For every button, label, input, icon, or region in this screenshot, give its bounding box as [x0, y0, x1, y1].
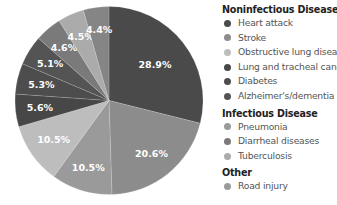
slice-label: 28.9% [138, 59, 171, 70]
slice-label: 5.1% [37, 58, 64, 69]
legend-group-title: Noninfectious Disease [222, 3, 337, 16]
legend-item-pneumonia: Pneumonia [222, 120, 337, 135]
legend-group-noninfectious: Noninfectious Disease Heart attack Strok… [222, 3, 337, 104]
legend-item-diabetes: Diabetes [222, 74, 337, 89]
legend-dot-icon [224, 64, 231, 71]
slice-label: 10.5% [37, 134, 70, 145]
pie-chart: 28.9%20.6%10.5%10.5%5.6%5.3%5.1%4.6%4.5%… [0, 0, 220, 205]
legend-group-infectious: Infectious Disease Pneumonia Diarrheal d… [222, 107, 337, 164]
legend-dot-icon [224, 183, 231, 190]
legend-item-alzheimers: Alzheimer's/dementia [222, 89, 337, 104]
legend-dot-icon [224, 93, 231, 100]
slice-label: 5.6% [27, 102, 54, 113]
legend-group-other: Other Road injury [222, 166, 337, 194]
legend-dot-icon [224, 34, 231, 41]
legend-dot-icon [224, 20, 231, 27]
legend-dot-icon [224, 78, 231, 85]
legend-dot-icon [224, 123, 231, 130]
legend-item-heart-attack: Heart attack [222, 16, 337, 31]
legend-group-title: Other [222, 166, 337, 179]
slice-label: 4.4% [86, 24, 113, 35]
legend-item-road-injury: Road injury [222, 179, 337, 194]
legend-item-tuberculosis: Tuberculosis [222, 149, 337, 164]
legend-dot-icon [224, 49, 231, 56]
legend-dot-icon [224, 138, 231, 145]
legend-group-title: Infectious Disease [222, 107, 337, 120]
legend-item-stroke: Stroke [222, 31, 337, 46]
legend-dot-icon [224, 153, 231, 160]
legend-item-lung-tracheal-cancers: Lung and tracheal cancers [222, 60, 337, 75]
legend-item-obstructive-lung-disease: Obstructive lung disease [222, 45, 337, 60]
slice-label: 20.6% [135, 148, 168, 159]
slice-label: 10.5% [72, 162, 105, 173]
legend: Noninfectious Disease Heart attack Strok… [222, 3, 337, 197]
legend-item-diarrheal-diseases: Diarrheal diseases [222, 134, 337, 149]
slice-label: 5.3% [28, 79, 55, 90]
